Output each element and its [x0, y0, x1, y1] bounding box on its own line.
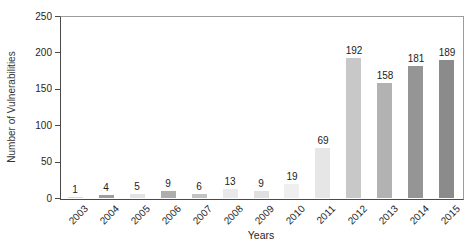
x-category-label: 2011: [315, 203, 338, 226]
bar-2014: [408, 66, 423, 198]
x-category-label: 2015: [438, 203, 462, 227]
bar-2015: [439, 60, 454, 198]
bar-value-label: 1: [58, 184, 92, 195]
y-tick-label: 100: [22, 120, 52, 131]
bar-value-label: 19: [275, 171, 309, 182]
x-category-label: 2009: [252, 203, 276, 227]
bar-value-label: 13: [213, 176, 247, 187]
y-tick-label: 150: [22, 83, 52, 94]
y-tick-label: 50: [22, 156, 52, 167]
plot-area: [60, 16, 464, 200]
bar-value-label: 158: [368, 70, 402, 81]
bar-2008: [223, 189, 238, 198]
bar-value-label: 4: [89, 182, 123, 193]
x-category-label: 2004: [97, 203, 121, 227]
vulnerability-bar-chart: Number of Vulnerabilities Years 05010015…: [0, 0, 473, 250]
bar-2012: [346, 58, 361, 198]
y-tick-label: 250: [22, 11, 52, 22]
bar-value-label: 192: [337, 45, 371, 56]
bar-value-label: 181: [399, 53, 433, 64]
x-category-label: 2008: [221, 203, 245, 227]
x-category-label: 2007: [190, 203, 214, 227]
bar-2006: [161, 191, 176, 198]
x-category-label: 2006: [159, 203, 183, 227]
y-tick-mark: [55, 125, 60, 126]
y-tick-label: 0: [22, 193, 52, 204]
y-tick-mark: [55, 198, 60, 199]
x-category-label: 2014: [407, 203, 431, 227]
bar-value-label: 5: [120, 181, 154, 192]
bar-2010: [284, 184, 299, 198]
bar-2009: [254, 191, 269, 198]
x-category-label: 2010: [283, 203, 307, 227]
bar-value-label: 6: [182, 181, 216, 192]
bar-2004: [99, 195, 114, 198]
bar-2005: [130, 194, 145, 198]
y-tick-mark: [55, 52, 60, 53]
bar-2003: [68, 197, 83, 198]
y-axis-title: Number of Vulnerabilities: [6, 51, 17, 162]
y-tick-label: 200: [22, 47, 52, 58]
x-category-label: 2005: [128, 203, 152, 227]
y-tick-mark: [55, 162, 60, 163]
bar-2013: [377, 83, 392, 198]
bar-value-label: 9: [151, 178, 185, 189]
y-tick-mark: [55, 16, 60, 17]
bar-2011: [315, 148, 330, 198]
x-category-label: 2013: [376, 203, 400, 227]
bar-value-label: 9: [244, 178, 278, 189]
x-axis-title: Years: [60, 229, 462, 241]
x-category-label: 2003: [66, 203, 90, 227]
bar-value-label: 69: [306, 135, 340, 146]
y-tick-mark: [55, 89, 60, 90]
x-category-label: 2012: [345, 203, 369, 227]
bar-value-label: 189: [430, 47, 464, 58]
bar-2007: [192, 194, 207, 198]
